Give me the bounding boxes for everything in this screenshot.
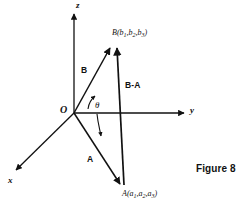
point-label-B: B(b1,b2,b3) bbox=[112, 29, 147, 37]
point-A-coord-2: a bbox=[139, 189, 143, 198]
vector-B-arrow bbox=[74, 48, 110, 113]
vector-B-minus-A-arrow bbox=[117, 48, 124, 185]
point-B-sub-2: 2 bbox=[133, 32, 136, 38]
axis-x-label: x bbox=[8, 176, 13, 185]
point-A-sub-1: 1 bbox=[134, 193, 137, 199]
axis-y-label: y bbox=[190, 106, 194, 115]
vector-A-arrow bbox=[74, 113, 120, 184]
point-B-coord-1: b bbox=[120, 28, 124, 37]
figure-8-vector-diagram: z y x O B A B-A θ B(b1,b2,b3) A(a1,a2,a3… bbox=[0, 0, 248, 213]
vector-B-label: B bbox=[81, 66, 87, 75]
page-bleed-text bbox=[0, 209, 248, 213]
vector-B-minus-A bbox=[117, 48, 124, 185]
origin-label: O bbox=[60, 105, 67, 115]
point-B-sub-3: 3 bbox=[142, 32, 145, 38]
angle-pointer-lower bbox=[97, 114, 101, 136]
point-label-A: A(a1,a2,a3) bbox=[122, 190, 157, 198]
point-A-coord-3: a bbox=[148, 189, 152, 198]
vector-A-label: A bbox=[87, 155, 93, 164]
angle-theta-label: θ bbox=[95, 101, 99, 110]
vector-A bbox=[74, 113, 120, 184]
point-B-coord-3: b bbox=[138, 28, 142, 37]
figure-caption: Figure 8 bbox=[196, 164, 236, 174]
theta-arc-upper bbox=[88, 96, 95, 109]
vector-B bbox=[74, 48, 110, 113]
axis-z-label: z bbox=[76, 1, 80, 10]
point-B-sub-1: 1 bbox=[124, 32, 127, 38]
vector-B-minus-A-label: B-A bbox=[125, 81, 141, 90]
axis-x bbox=[16, 113, 74, 170]
point-A-sub-2: 2 bbox=[143, 193, 146, 199]
axis-x-line bbox=[16, 113, 74, 170]
angle-theta-arc bbox=[88, 96, 95, 109]
point-A-coord-1: a bbox=[130, 189, 134, 198]
point-A-sub-3: 3 bbox=[152, 193, 155, 199]
point-B-coord-2: b bbox=[129, 28, 133, 37]
theta-arc-lower bbox=[97, 114, 101, 136]
